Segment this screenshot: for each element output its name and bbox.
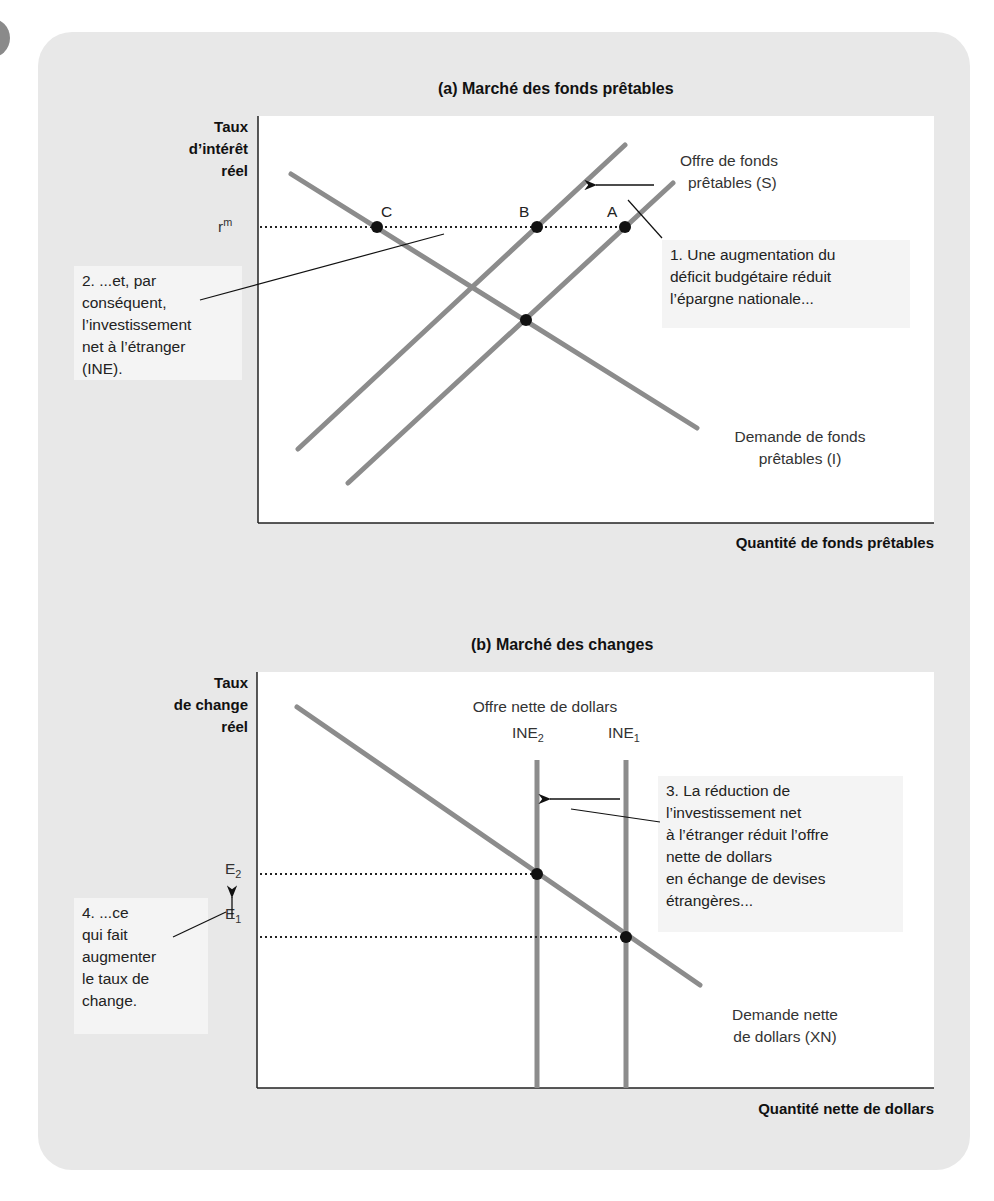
panel-a-axes [258,116,934,523]
chart-lines [0,0,994,1201]
point-c [371,221,383,233]
point-e2 [531,868,543,880]
point-e1 [620,931,632,943]
net-dollar-demand-curve [297,707,700,985]
loanable-supply-shifted-curve [298,145,625,449]
point-b [531,221,543,233]
loanable-demand-curve [291,174,697,428]
panel-b-axes [257,672,934,1088]
equilibrium-point-a [520,314,532,326]
point-a [619,221,631,233]
